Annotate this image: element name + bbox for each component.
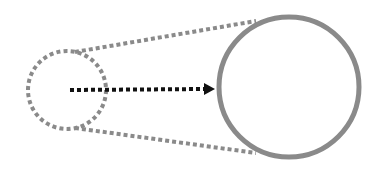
tangent-line-bottom bbox=[75, 128, 256, 153]
diagram-canvas bbox=[0, 0, 384, 177]
magnify-diagram: Magnification/zoom diagram: small dotted… bbox=[0, 0, 384, 177]
arrow-head-icon bbox=[204, 83, 215, 95]
arrow-shaft bbox=[70, 89, 205, 90]
large-solid-circle bbox=[219, 17, 359, 157]
